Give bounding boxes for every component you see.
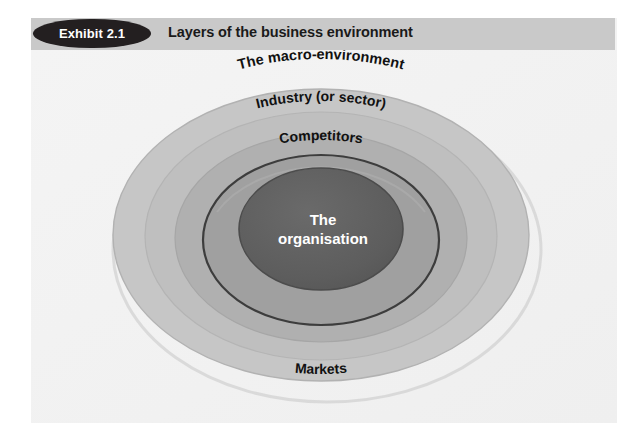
layers-diagram-svg: The macro-environment Industry (or secto… (31, 50, 617, 423)
label-organisation-line2: organisation (278, 230, 368, 247)
label-organisation-line1: The (310, 211, 337, 228)
layers-diagram: The macro-environment Industry (or secto… (31, 50, 617, 423)
exhibit-number-badge: Exhibit 2.1 (33, 19, 151, 48)
core-organisation (239, 168, 403, 290)
exhibit-title: Layers of the business environment (168, 24, 413, 40)
label-markets: Markets (294, 360, 347, 377)
exhibit-number-label: Exhibit 2.1 (59, 26, 125, 41)
